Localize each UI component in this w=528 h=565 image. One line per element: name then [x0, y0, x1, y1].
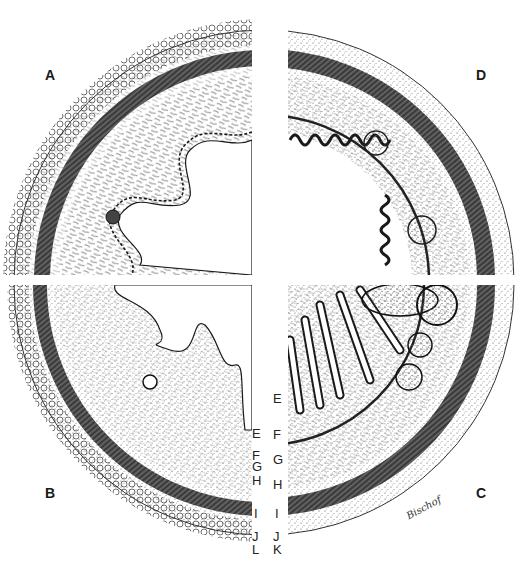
- layer-label-right-i: I: [275, 507, 279, 520]
- quadrant-label-c: C: [476, 486, 486, 500]
- layer-label-right-e: E: [273, 392, 282, 405]
- quadrant-label-b: B: [45, 486, 55, 500]
- layer-label-left-i: I: [254, 507, 258, 520]
- layer-label-left-h: H: [252, 474, 261, 487]
- layer-label-right-k: K: [273, 543, 282, 556]
- layer-label-right-g: G: [273, 453, 283, 466]
- cross-section-figure: [0, 0, 528, 565]
- quadrant-label-a: A: [45, 68, 55, 82]
- quadrant-label-d: D: [476, 68, 486, 82]
- layer-label-right-f: F: [273, 428, 281, 441]
- layer-label-left-l: L: [252, 543, 259, 556]
- layer-label-left-e: E: [252, 427, 261, 440]
- layer-label-right-h: H: [273, 478, 282, 491]
- layer-label-left-g: G: [252, 460, 262, 473]
